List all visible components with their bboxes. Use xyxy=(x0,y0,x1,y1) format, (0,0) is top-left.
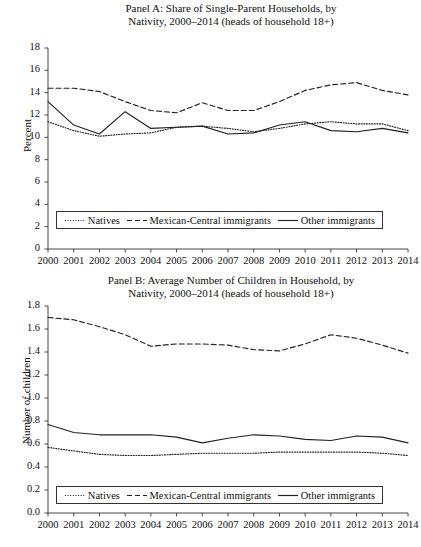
panel-a-legend-other-line-swatch-icon xyxy=(277,217,299,224)
panel-a-x-tick-label: 2004 xyxy=(138,255,164,266)
panel-b-x-tick-label: 2009 xyxy=(266,519,292,530)
panel-a-legend-other-label: Other immigrants xyxy=(301,215,375,226)
panel-b-x-tick-label: 2005 xyxy=(164,519,190,530)
panel-b-x-tick-label: 2010 xyxy=(292,519,318,530)
panel-b-legend-natives-line-swatch-icon xyxy=(64,492,86,499)
panel-b-x-tick-label: 2013 xyxy=(369,519,395,530)
panel-b-x-tick-label: 2007 xyxy=(215,519,241,530)
panel-a-plot-area xyxy=(0,0,418,272)
panel-a-legend-natives-line-swatch-icon xyxy=(64,217,86,224)
panel-b-y-tick-label: 0.0 xyxy=(6,506,40,517)
panel-b-legend-mexican-central-line-swatch-icon xyxy=(126,492,148,499)
panel-a-x-tick-label: 2005 xyxy=(164,255,190,266)
panel-b-series-solid xyxy=(48,424,408,442)
panel-a-y-tick-label: 10 xyxy=(6,130,40,141)
panel-b-plot-area xyxy=(0,272,418,547)
panel-b-x-tick-label: 2006 xyxy=(189,519,215,530)
panel-a-legend-mexican-central[interactable]: Mexican-Central immigrants xyxy=(126,215,272,226)
panel-b-legend-other[interactable]: Other immigrants xyxy=(277,490,375,501)
panel-a-series-dashed xyxy=(48,83,408,113)
panel-b-y-tick-label: 1.0 xyxy=(6,391,40,402)
panel-b-y-tick-label: 0.2 xyxy=(6,483,40,494)
panel-a-y-tick-label: 18 xyxy=(6,41,40,52)
panel-a-y-tick-label: 16 xyxy=(6,63,40,74)
panel-a-y-tick-label: 6 xyxy=(6,175,40,186)
panel-a-series-solid xyxy=(48,102,408,134)
panel-a-x-tick-label: 2002 xyxy=(86,255,112,266)
panel-a-x-tick-label: 2001 xyxy=(61,255,87,266)
panel-a-y-tick-label: 0 xyxy=(6,242,40,253)
panel-a-y-tick-label: 4 xyxy=(6,197,40,208)
panel-a-x-tick-label: 2007 xyxy=(215,255,241,266)
panel-a-x-tick-label: 2010 xyxy=(292,255,318,266)
panel-b-legend-mexican-central-label: Mexican-Central immigrants xyxy=(150,490,272,501)
panel-a-x-tick-label: 2012 xyxy=(344,255,370,266)
panel-b-series-dashed xyxy=(48,318,408,354)
panel-b-x-tick-label: 2000 xyxy=(35,519,61,530)
panel-a-legend-natives[interactable]: Natives xyxy=(64,215,120,226)
panel-b-y-tick-label: 0.6 xyxy=(6,437,40,448)
panel-b-series-dotted xyxy=(48,447,408,455)
panel-b-legend-natives-label: Natives xyxy=(88,490,120,501)
panel-a-x-tick-label: 2011 xyxy=(318,255,344,266)
panel-a-x-tick-label: 2008 xyxy=(241,255,267,266)
panel-a-x-tick-label: 2000 xyxy=(35,255,61,266)
panel-b-y-tick-label: 0.8 xyxy=(6,414,40,425)
panel-b-chart: Panel B: Average Number of Children in H… xyxy=(0,272,418,547)
panel-b-x-tick-label: 2008 xyxy=(241,519,267,530)
panel-b-legend-other-line-swatch-icon xyxy=(277,492,299,499)
panel-b-x-tick-label: 2004 xyxy=(138,519,164,530)
panel-a-x-tick-label: 2009 xyxy=(266,255,292,266)
panel-a-y-tick-label: 8 xyxy=(6,153,40,164)
panel-b-y-tick-label: 1.6 xyxy=(6,322,40,333)
panel-b-y-tick-label: 1.2 xyxy=(6,368,40,379)
panel-a-legend-mexican-central-line-swatch-icon xyxy=(126,217,148,224)
panel-b-x-tick-label: 2003 xyxy=(112,519,138,530)
panel-a-x-tick-label: 2013 xyxy=(369,255,395,266)
panel-a-legend-natives-label: Natives xyxy=(88,215,120,226)
panel-b-legend-other-label: Other immigrants xyxy=(301,490,375,501)
panel-b-y-tick-label: 0.4 xyxy=(6,460,40,471)
panel-a-legend-mexican-central-label: Mexican-Central immigrants xyxy=(150,215,272,226)
panel-b-y-tick-label: 1.4 xyxy=(6,345,40,356)
panel-a-x-tick-label: 2006 xyxy=(189,255,215,266)
panel-b-x-tick-label: 2012 xyxy=(344,519,370,530)
panel-b-legend-mexican-central[interactable]: Mexican-Central immigrants xyxy=(126,490,272,501)
panel-a-legend-other[interactable]: Other immigrants xyxy=(277,215,375,226)
panel-b-x-tick-label: 2011 xyxy=(318,519,344,530)
panel-b-y-tick-label: 1.8 xyxy=(6,299,40,310)
panel-a-y-tick-label: 14 xyxy=(6,86,40,97)
panel-a-chart: Panel A: Share of Single-Parent Househol… xyxy=(0,0,418,272)
panel-b-x-tick-label: 2001 xyxy=(61,519,87,530)
panel-a-legend: NativesMexican-Central immigrantsOther i… xyxy=(56,211,383,229)
panel-b-x-tick-label: 2002 xyxy=(86,519,112,530)
panel-a-y-tick-label: 2 xyxy=(6,220,40,231)
panel-a-x-tick-label: 2014 xyxy=(395,255,421,266)
panel-b-x-tick-label: 2014 xyxy=(395,519,421,530)
panel-a-x-tick-label: 2003 xyxy=(112,255,138,266)
panel-b-legend-natives[interactable]: Natives xyxy=(64,490,120,501)
panel-b-legend: NativesMexican-Central immigrantsOther i… xyxy=(56,486,383,504)
panel-a-y-tick-label: 12 xyxy=(6,108,40,119)
